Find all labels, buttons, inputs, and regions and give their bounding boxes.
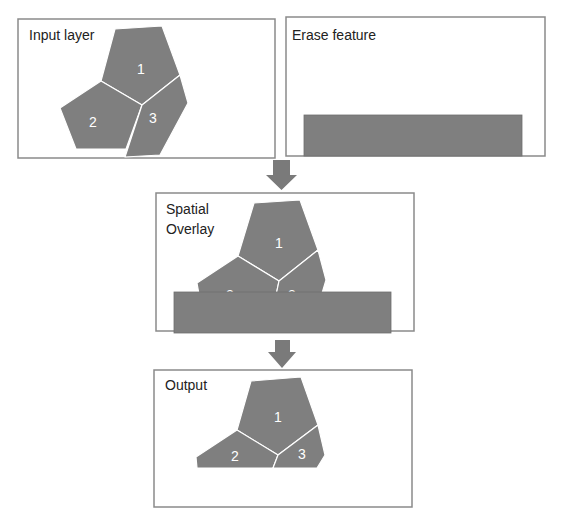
erase-diagram: Input layer 1 2 3 Erase feature Spatial … [0, 0, 564, 522]
erase-feature-title: Erase feature [292, 27, 376, 43]
output-panel: Output 1 2 3 [154, 370, 412, 507]
spatial-overlay-panel: Spatial Overlay 1 2 3 [156, 193, 414, 333]
output-label-2: 2 [231, 448, 239, 464]
spatial-overlay-title-line1: Spatial [166, 201, 209, 217]
erase-feature-panel: Erase feature [286, 17, 545, 156]
down-arrow-icon [268, 340, 296, 368]
output-title: Output [165, 377, 207, 393]
input-layer-panel: Input layer 1 2 3 [18, 19, 275, 158]
input-label-1: 1 [137, 61, 145, 77]
input-label-2: 2 [89, 114, 97, 130]
input-layer-title: Input layer [29, 27, 95, 43]
overlay-label-1: 1 [275, 235, 283, 251]
input-label-3: 3 [149, 110, 157, 126]
overlay-erase-rectangle [174, 292, 391, 333]
spatial-overlay-title-line2: Overlay [166, 221, 214, 237]
down-arrow-icon [266, 160, 297, 190]
output-label-1: 1 [274, 409, 282, 425]
output-label-3: 3 [298, 446, 306, 462]
erase-rectangle [304, 115, 522, 156]
